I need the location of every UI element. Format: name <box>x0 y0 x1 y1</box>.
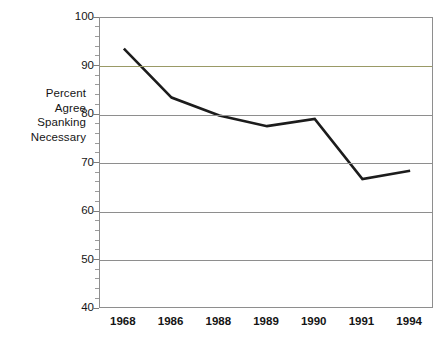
x-tick-label-1994: 1994 <box>396 315 422 327</box>
y-axis-tick-labels: 405060708090100 <box>66 0 94 344</box>
x-tick-label-1989: 1989 <box>253 315 279 327</box>
plot-area <box>99 17 433 308</box>
x-tick-label-1990: 1990 <box>301 315 327 327</box>
y-major-tick-90 <box>92 65 99 66</box>
y-major-tick-50 <box>92 259 99 260</box>
y-major-tick-70 <box>92 162 99 163</box>
y-axis-ticks <box>92 17 99 308</box>
x-tick-label-1988: 1988 <box>205 315 231 327</box>
y-major-tick-40 <box>92 308 99 309</box>
x-axis-tick-labels: 1968198619881989199019911994 <box>99 315 433 335</box>
x-tick-label-1968: 1968 <box>110 315 136 327</box>
gridline-50 <box>100 260 432 261</box>
y-major-tick-80 <box>92 114 99 115</box>
x-tick-label-1986: 1986 <box>158 315 184 327</box>
chart-figure: Percent Agree Spanking Necessary 4050607… <box>0 0 448 344</box>
gridline-80 <box>100 115 432 116</box>
y-major-tick-60 <box>92 211 99 212</box>
x-tick-label-1991: 1991 <box>349 315 375 327</box>
gridline-90 <box>100 66 432 67</box>
y-major-tick-100 <box>92 17 99 18</box>
gridline-60 <box>100 212 432 213</box>
gridline-70 <box>100 163 432 164</box>
